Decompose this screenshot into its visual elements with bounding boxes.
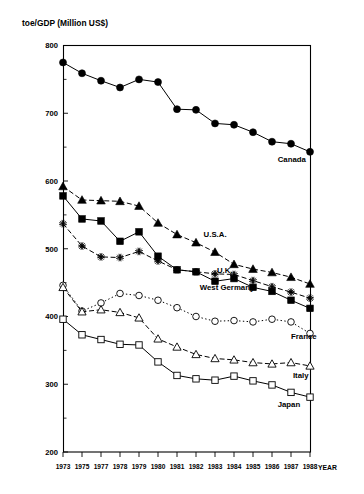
data-point-marker — [116, 308, 124, 315]
series-u-s-a — [59, 182, 315, 287]
data-series-layer — [59, 59, 315, 400]
data-point-marker — [288, 389, 294, 395]
data-point-marker — [78, 196, 87, 204]
y-tick-label: 800 — [45, 41, 58, 50]
data-point-marker — [135, 248, 143, 256]
x-tick-label: 1983 — [208, 463, 223, 470]
data-point-marker — [307, 148, 314, 155]
data-point-marker — [211, 248, 220, 256]
data-point-marker — [212, 377, 218, 383]
data-point-marker — [60, 59, 67, 66]
x-axis-title: YEAR — [318, 464, 337, 471]
data-point-marker — [79, 332, 85, 338]
data-point-marker — [231, 121, 238, 128]
data-point-marker — [155, 79, 162, 86]
data-point-marker — [116, 254, 124, 262]
data-point-marker — [287, 288, 295, 296]
x-tick-label: 1980 — [151, 463, 166, 470]
x-tick-label: 1977 — [94, 463, 109, 470]
data-point-marker — [117, 290, 124, 297]
data-point-marker — [306, 280, 315, 288]
data-point-marker — [174, 372, 180, 378]
data-point-marker — [212, 318, 219, 325]
x-tick-label: 1978 — [113, 463, 128, 470]
data-point-marker — [288, 297, 295, 304]
series-canada — [60, 59, 314, 155]
data-point-marker — [212, 120, 219, 127]
data-point-marker — [193, 106, 200, 113]
data-point-marker — [193, 313, 200, 320]
x-tick-label: 1987 — [284, 463, 299, 470]
series-line — [63, 287, 310, 366]
data-point-marker — [154, 335, 162, 342]
series-u-k — [60, 193, 314, 312]
data-point-marker — [78, 242, 86, 250]
data-point-marker — [269, 138, 276, 145]
data-point-marker — [97, 306, 105, 313]
y-tick-label: 300 — [45, 380, 58, 389]
data-point-marker — [288, 319, 295, 326]
data-point-marker — [117, 341, 123, 347]
x-tick-label: 1975 — [75, 463, 90, 470]
series-label-u-k-: U.K. — [217, 266, 233, 275]
x-axis-tick-marks — [63, 452, 310, 457]
data-point-marker — [59, 182, 68, 190]
x-tick-label: 1973 — [56, 463, 71, 470]
data-point-marker — [231, 373, 237, 379]
data-point-marker — [60, 193, 67, 200]
data-point-marker — [269, 382, 275, 388]
data-point-marker — [98, 336, 104, 342]
y-axis-tick-labels: 200300400500600700800 — [45, 41, 58, 457]
data-point-marker — [136, 76, 143, 83]
data-point-marker — [155, 359, 161, 365]
data-point-marker — [117, 238, 124, 245]
x-tick-label: 1985 — [246, 463, 261, 470]
x-axis-tick-labels: 1973197519771978197919801981198219831984… — [56, 463, 318, 470]
series-label-u-s-a-: U.S.A. — [204, 230, 227, 239]
data-point-marker — [231, 317, 238, 324]
y-tick-label: 600 — [45, 177, 58, 186]
data-point-marker — [269, 316, 276, 323]
data-point-marker — [173, 230, 182, 238]
y-tick-label: 500 — [45, 245, 58, 254]
data-point-marker — [98, 218, 105, 225]
y-tick-label: 700 — [45, 109, 58, 118]
data-point-marker — [116, 197, 125, 205]
chart-canvas: toe/GDP (Million US$) 200300400500600700… — [0, 0, 364, 494]
data-point-marker — [79, 216, 86, 223]
series-label-france: France — [291, 332, 317, 341]
data-point-marker — [192, 350, 200, 357]
y-axis-title: toe/GDP (Million US$) — [22, 18, 108, 28]
y-tick-label: 400 — [45, 312, 58, 321]
x-tick-label: 1981 — [170, 463, 185, 470]
series-label-west-germany: West Germany — [200, 283, 255, 292]
data-point-marker — [136, 292, 143, 299]
data-point-marker — [79, 70, 86, 77]
plot-frame — [64, 46, 311, 453]
data-point-marker — [192, 238, 201, 246]
y-tick-label: 200 — [45, 448, 58, 457]
data-point-marker — [288, 140, 295, 147]
x-tick-label: 1988 — [303, 463, 318, 470]
data-point-marker — [307, 394, 313, 400]
data-point-marker — [193, 376, 199, 382]
data-point-marker — [307, 305, 314, 312]
data-point-marker — [250, 319, 257, 326]
x-tick-label: 1979 — [132, 463, 147, 470]
data-point-marker — [136, 342, 142, 348]
x-tick-label: 1982 — [189, 463, 204, 470]
data-point-marker — [98, 77, 105, 84]
data-point-marker — [250, 378, 256, 384]
x-tick-label: 1986 — [265, 463, 280, 470]
series-label-italy: Italy — [293, 371, 309, 380]
data-point-marker — [136, 229, 143, 236]
chart-figure: toe/GDP (Million US$) 200300400500600700… — [0, 0, 364, 494]
series-japan — [60, 316, 313, 400]
x-tick-label: 1984 — [227, 463, 242, 470]
data-point-marker — [250, 129, 257, 136]
data-point-marker — [174, 304, 181, 311]
series-label-japan: Japan — [278, 400, 301, 409]
series-italy — [59, 283, 314, 369]
data-point-marker — [174, 106, 181, 113]
data-point-marker — [287, 273, 296, 281]
